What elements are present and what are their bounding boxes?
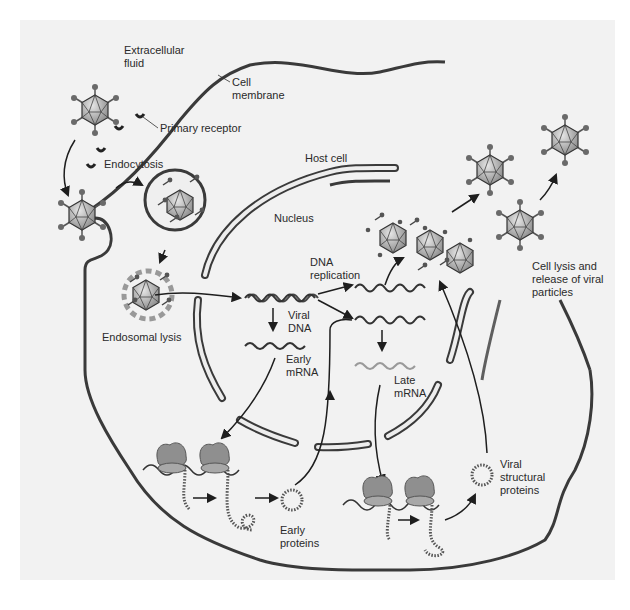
label-early-proteins: Early proteins: [280, 524, 319, 550]
label-cell-membrane: Cell membrane: [232, 76, 285, 102]
label-dna-replication: DNA replication: [310, 256, 360, 282]
label-viral-dna: Viral DNA: [288, 309, 311, 335]
label-host-cell: Host cell: [305, 152, 347, 165]
ribosome-icon-4: [405, 476, 434, 506]
label-endosomal-lysis: Endosomal lysis: [102, 331, 181, 344]
ribosome-icon-3: [363, 476, 392, 506]
label-cell-lysis: Cell lysis and release of viral particle…: [532, 260, 604, 299]
label-early-mrna: Early mRNA: [286, 353, 318, 379]
label-endocytosis: Endocytosis: [104, 158, 163, 171]
ribosome-icon-1: [157, 443, 186, 473]
label-nucleus: Nucleus: [274, 212, 314, 225]
viral-replication-diagram: Extracellular fluid Cell membrane Primar…: [0, 0, 630, 610]
label-primary-receptor: Primary receptor: [160, 122, 241, 135]
label-late-mrna: Late mRNA: [394, 374, 426, 400]
ribosome-icon-2: [200, 443, 229, 473]
diagram-canvas: [0, 0, 630, 610]
label-viral-structural-proteins: Viral structural proteins: [500, 458, 545, 497]
label-extracellular-fluid: Extracellular fluid: [124, 44, 185, 70]
